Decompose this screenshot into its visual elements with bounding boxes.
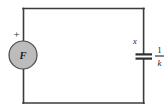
source-label: F	[18, 50, 26, 61]
plus-icon: +	[13, 28, 19, 40]
capacitor-value-numerator: 1	[157, 45, 162, 55]
circuit-diagram: F + x 1 k	[0, 0, 168, 112]
capacitor-value-denominator: k	[158, 58, 163, 68]
capacitor-variable-label: x	[132, 36, 137, 46]
circuit-schematic-canvas: F + x 1 k	[0, 0, 168, 112]
